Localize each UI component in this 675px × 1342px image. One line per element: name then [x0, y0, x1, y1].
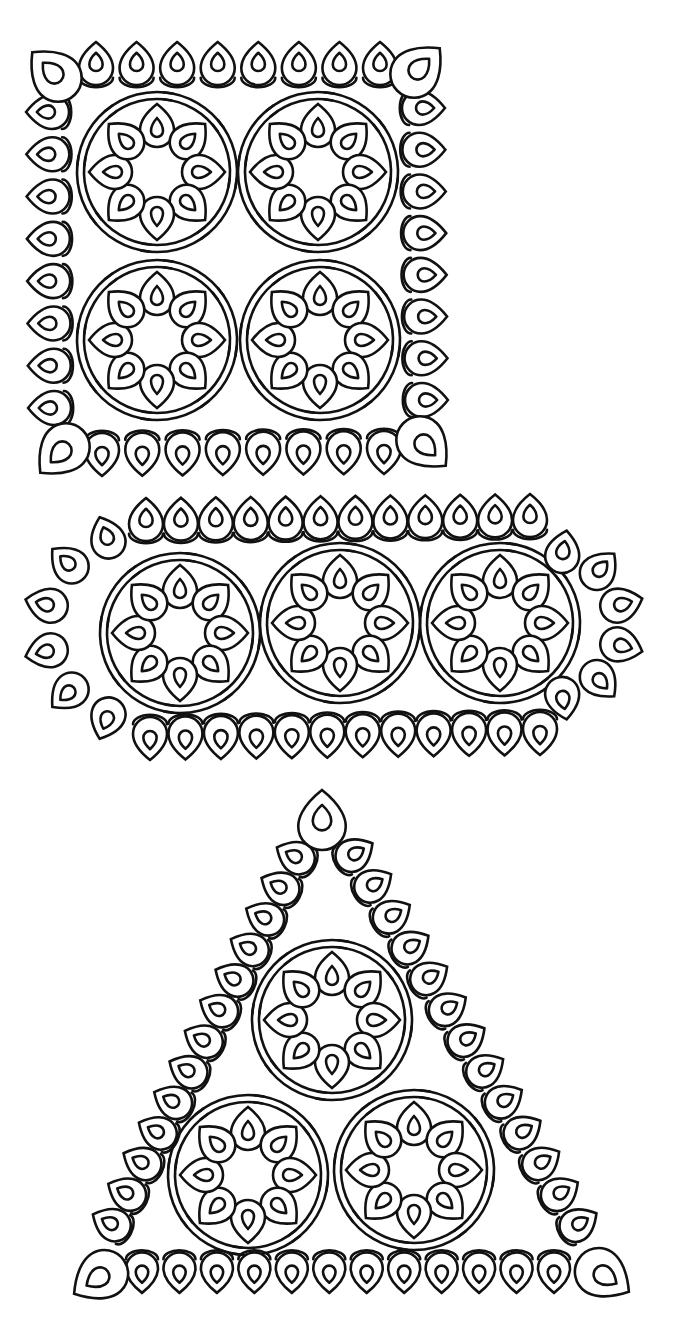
border-ring	[513, 494, 547, 537]
border-ring	[27, 180, 70, 214]
corner-ring	[15, 35, 91, 111]
border-ring	[282, 42, 316, 85]
border-ring	[239, 716, 273, 759]
square-doily	[15, 31, 462, 489]
border-ring	[241, 42, 275, 85]
border-ring	[463, 1252, 495, 1292]
flower-motif	[77, 92, 237, 252]
border-ring	[79, 42, 113, 85]
flower-motif	[260, 543, 420, 703]
border-ring	[405, 341, 448, 375]
border-ring	[238, 1252, 270, 1292]
corner-ring	[298, 790, 346, 850]
border-ring	[21, 583, 71, 626]
border-ring	[27, 264, 70, 298]
border-ring	[388, 1252, 420, 1292]
border-ring	[373, 496, 407, 539]
triangle-doily	[61, 790, 642, 1314]
border-ring	[403, 216, 446, 250]
border-ring	[338, 496, 372, 539]
border-ring	[327, 431, 361, 474]
border-ring	[125, 433, 159, 476]
flower-motif	[77, 260, 237, 420]
border-ring	[443, 495, 477, 538]
oval-doily	[21, 494, 646, 760]
border-ring	[41, 666, 96, 720]
border-ring	[206, 432, 240, 475]
flower-motif	[252, 940, 412, 1100]
border-ring	[120, 42, 154, 85]
border-ring	[166, 432, 200, 475]
corner-ring	[61, 1241, 137, 1314]
border-ring	[351, 1252, 383, 1292]
flower-motif	[100, 553, 260, 713]
border-ring	[538, 1252, 570, 1292]
flower-motif	[238, 92, 398, 252]
border-ring	[417, 713, 451, 756]
border-ring	[133, 717, 167, 760]
flower-motif	[334, 1090, 494, 1250]
border-ring	[322, 42, 356, 85]
border-ring	[85, 433, 119, 476]
border-ring	[28, 349, 71, 383]
border-ring	[26, 137, 69, 171]
border-ring	[346, 714, 380, 757]
border-ring	[160, 42, 194, 85]
border-ring	[27, 222, 70, 256]
border-ring	[313, 1252, 345, 1292]
border-ring	[304, 496, 338, 539]
border-ring	[501, 1252, 533, 1292]
border-ring	[275, 715, 309, 758]
border-ring	[310, 715, 344, 758]
corner-ring	[23, 413, 99, 489]
border-ring	[404, 300, 447, 334]
corner-ring	[566, 1239, 642, 1312]
border-ring	[488, 712, 522, 755]
border-ring	[478, 494, 512, 537]
border-ring	[404, 258, 447, 292]
border-ring	[84, 693, 131, 745]
border-ring	[199, 497, 233, 540]
border-ring	[269, 497, 303, 540]
border-ring	[27, 306, 70, 340]
border-ring	[381, 714, 415, 757]
border-ring	[204, 716, 238, 759]
border-ring	[426, 1252, 458, 1292]
border-ring	[163, 1252, 195, 1292]
corner-ring	[386, 406, 462, 482]
border-ring	[286, 432, 320, 475]
border-ring	[84, 511, 131, 563]
border-ring	[164, 498, 198, 541]
border-ring	[234, 497, 268, 540]
border-ring	[452, 713, 486, 756]
border-ring	[201, 42, 235, 85]
border-ring	[246, 432, 280, 475]
border-ring	[201, 1252, 233, 1292]
corner-ring	[380, 31, 456, 107]
flower-motif	[168, 1095, 328, 1255]
border-ring	[28, 391, 71, 425]
border-ring	[168, 717, 202, 760]
border-ring	[276, 1252, 308, 1292]
border-ring	[21, 630, 71, 673]
border-ring	[405, 383, 448, 417]
border-ring	[523, 712, 557, 755]
flower-motif	[240, 260, 400, 420]
border-ring	[126, 1252, 158, 1292]
border-ring	[403, 174, 446, 208]
tatting-illustration	[0, 0, 675, 1342]
border-ring	[129, 498, 163, 541]
border-ring	[41, 536, 96, 590]
border-ring	[408, 495, 442, 538]
border-ring	[402, 133, 445, 167]
